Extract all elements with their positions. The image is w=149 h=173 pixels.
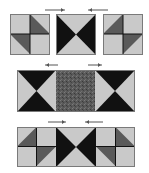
quilt-assembly-diagram bbox=[0, 0, 149, 173]
row1-block3-pinwheel-b-cell-tr bbox=[123, 14, 143, 34]
row1-press-arrow-1-head bbox=[61, 8, 64, 12]
row2-press-arrow-1-head bbox=[46, 63, 49, 67]
row3-block1-pinwheel-b-cell-bl bbox=[17, 147, 37, 167]
row1-press-arrow-2-head bbox=[89, 8, 92, 12]
row3-block3-pinwheel-a-cell-tl bbox=[96, 127, 116, 147]
row2-block2-print-rectangle-print bbox=[56, 70, 95, 112]
row1-block3-pinwheel-b-cell-bl bbox=[103, 34, 123, 54]
row2-press-arrow-2-head bbox=[98, 63, 101, 67]
row3-block3-pinwheel-a-cell-br bbox=[116, 147, 136, 167]
row1-block1-pinwheel-a-cell-tl bbox=[10, 14, 30, 35]
row3-block1-pinwheel-b-cell-tr bbox=[37, 127, 57, 147]
row3-press-arrow-1-head bbox=[62, 120, 65, 124]
row1-block1-pinwheel-a-cell-br bbox=[30, 34, 50, 54]
row3-press-arrow-2-head bbox=[86, 120, 89, 124]
